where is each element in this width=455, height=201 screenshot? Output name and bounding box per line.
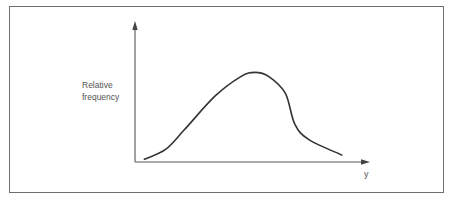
x-axis-label: y <box>364 169 369 179</box>
y-axis-arrowhead <box>132 21 137 30</box>
relative-frequency-curve <box>144 72 341 159</box>
x-axis-arrowhead <box>361 159 370 164</box>
chart: Relative frequency y <box>0 0 455 201</box>
y-axis-label-line-2: frequency <box>82 92 120 102</box>
y-axis-label-line-1: Relative <box>82 80 113 90</box>
